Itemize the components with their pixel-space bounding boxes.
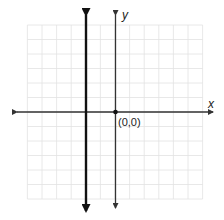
origin-point xyxy=(113,110,118,115)
coordinate-plane: y x (0,0) xyxy=(0,0,224,220)
x-axis-label: x xyxy=(207,97,215,111)
origin-label: (0,0) xyxy=(118,116,141,128)
y-axis-label: y xyxy=(121,8,129,22)
